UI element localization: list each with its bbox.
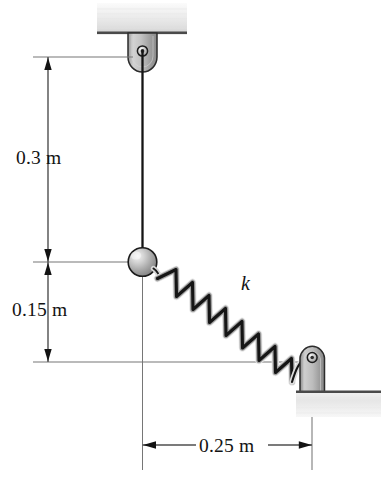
- spring: [154, 269, 307, 383]
- schematic-svg: [0, 0, 381, 477]
- dimension-label-upper: 0.3 m: [16, 148, 61, 168]
- dimension-label-lower: 0.15 m: [12, 300, 67, 320]
- dimension-label-horizontal: 0.25 m: [199, 436, 254, 456]
- figure-canvas: 0.3 m 0.15 m 0.25 m k: [0, 0, 381, 477]
- ball: [128, 248, 157, 277]
- extension-lines: [33, 57, 312, 470]
- spring-stiffness-label: k: [241, 273, 250, 293]
- anchor-pin: [307, 353, 317, 363]
- ground-support: [296, 391, 381, 418]
- ceiling-support: [97, 3, 187, 34]
